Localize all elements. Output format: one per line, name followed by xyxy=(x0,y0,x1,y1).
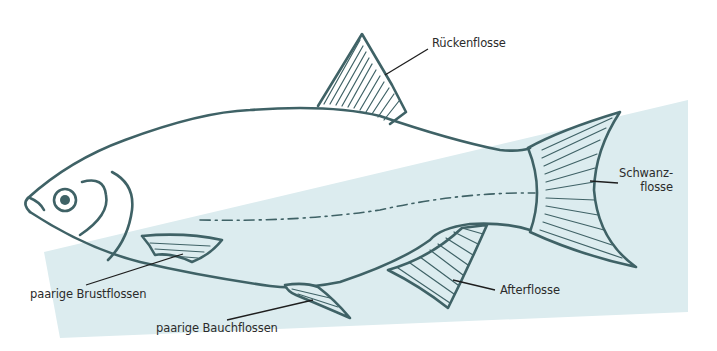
fish-mouth xyxy=(25,198,44,212)
fish-pupil xyxy=(60,195,70,205)
label-anal-fin: Afterflosse xyxy=(500,283,560,297)
label-caudal-fin-line2: flosse xyxy=(615,180,673,194)
dorsal-fin xyxy=(318,34,406,124)
label-pelvic-fins: paarige Bauchflossen xyxy=(156,321,278,335)
gill-cover-inner xyxy=(80,181,106,235)
label-dorsal-fin: Rückenflosse xyxy=(432,36,506,50)
label-pectoral-fins: paarige Brustflossen xyxy=(30,287,146,301)
leader-line-dorsal xyxy=(385,49,428,75)
fish-diagram: Rückenflosse Schwanz- flosse paarige Bru… xyxy=(0,0,717,351)
label-caudal-fin-line1: Schwanz- xyxy=(615,166,673,180)
